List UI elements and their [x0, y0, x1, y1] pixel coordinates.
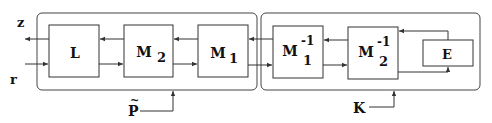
svg-text:~: ~ [130, 94, 139, 107]
output-signal-z: z [17, 15, 24, 30]
svg-text:L: L [70, 45, 80, 61]
block-m1: M 1 [198, 25, 248, 77]
input-signal-r: r [10, 72, 17, 87]
svg-text:-1: -1 [377, 35, 390, 49]
svg-text:-1: -1 [301, 34, 314, 48]
k-label: K [353, 91, 394, 116]
svg-text:M: M [136, 44, 152, 60]
block-m2: M 2 [124, 25, 173, 77]
block-diagram: L M 2 M 1 M -1 1 M -1 2 E [0, 0, 492, 123]
svg-text:1: 1 [229, 51, 238, 66]
block-m2-inverse: M -1 2 [348, 27, 398, 79]
svg-text:1: 1 [303, 53, 312, 68]
svg-text:K: K [353, 100, 366, 116]
svg-text:E: E [442, 47, 452, 62]
p-tilde-label: P ~ [128, 91, 173, 119]
svg-text:M: M [210, 45, 226, 61]
svg-text:2: 2 [379, 54, 388, 69]
block-l: L [49, 25, 99, 77]
block-m1-inverse: M -1 1 [273, 26, 323, 78]
svg-text:2: 2 [157, 50, 166, 65]
block-e: E [423, 40, 473, 66]
svg-text:M: M [358, 44, 374, 60]
svg-text:M: M [282, 43, 298, 59]
